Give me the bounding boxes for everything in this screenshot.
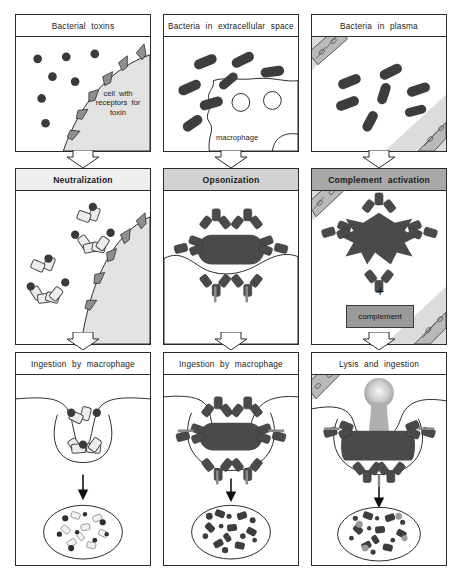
ingested-antibody-complex — [67, 406, 102, 453]
vessel-wall-bottom-right — [385, 94, 446, 151]
connector-arrow-3b — [311, 332, 447, 350]
antibody-toxin-complex-lower — [27, 254, 70, 303]
panel-body-bacteria-extracellular: macrophage — [164, 37, 298, 151]
column-opsonization: Bacteria in extracellular space — [163, 0, 301, 574]
digestion-arrow — [79, 474, 87, 498]
neutralized-toxin-art — [16, 191, 150, 344]
bound-toxins — [27, 254, 70, 290]
label-macrophage: macrophage — [216, 133, 276, 142]
lysing-bacterium — [341, 431, 415, 461]
panel-neutralization: Neutralization — [15, 168, 151, 345]
vessel-wall-top-left — [312, 37, 347, 71]
vessel-wall-top-left — [312, 191, 344, 221]
panel-title-bacterial-toxins: Bacterial toxins — [16, 15, 150, 37]
plus-operator: + — [312, 283, 446, 299]
immunology-figure: Bacterial toxins — [0, 0, 460, 574]
vessel-wall-top-left — [312, 375, 342, 401]
panel-title-complement-activation: Complement activation — [312, 169, 446, 191]
panel-title-opsonization: Opsonization — [164, 169, 298, 191]
panel-body-lysis-ingestion — [312, 375, 446, 565]
connector-arrow-3a — [311, 150, 447, 168]
panel-body-neutralization — [16, 191, 150, 344]
panel-title-ingestion-1: Ingestion by macrophage — [16, 353, 150, 375]
connector-arrow-1a — [15, 150, 151, 168]
panel-title-bacteria-plasma: Bacteria in plasma — [312, 15, 446, 37]
opsonized-bacterium-art — [164, 191, 298, 344]
panel-body-bacteria-plasma — [312, 37, 446, 151]
bacterium-with-antibodies — [342, 213, 417, 265]
panel-title-neutralization: Neutralization — [16, 169, 150, 191]
complement-label-box: complement — [346, 305, 414, 328]
panel-body-ingestion-2 — [164, 375, 298, 565]
panel-body-complement-activation: + complement — [312, 191, 446, 344]
panel-body-ingestion-1 — [16, 375, 150, 565]
panel-ingestion-neutralization: Ingestion by macrophage — [15, 352, 151, 566]
lysosome — [192, 505, 271, 559]
connector-arrow-2b — [163, 332, 299, 350]
panel-title-lysis-ingestion: Lysis and ingestion — [312, 353, 446, 375]
panel-bacterial-toxins: Bacterial toxins — [15, 14, 151, 152]
phagocytosis-art-2 — [164, 375, 298, 565]
blood-vessel-art — [312, 37, 446, 151]
connector-arrow-1b — [15, 332, 151, 350]
vacuole — [264, 92, 282, 110]
panel-title-bacteria-extracellular: Bacteria in extracellular space — [164, 15, 298, 37]
bound-toxins — [71, 203, 115, 239]
digestion-arrow — [227, 478, 235, 500]
connector-arrow-2a — [163, 150, 299, 168]
panel-title-ingestion-2: Ingestion by macrophage — [164, 353, 298, 375]
panel-lysis-and-ingestion: Lysis and ingestion — [311, 352, 447, 566]
lysed-contents-bleb — [364, 378, 394, 433]
bacterium — [199, 423, 262, 451]
antibody-toxin-complex-upper — [71, 203, 115, 254]
lysosome — [338, 507, 421, 561]
lysis-art — [312, 375, 446, 565]
panel-body-bacterial-toxins: cell with receptors for toxin — [16, 37, 150, 151]
bacterium — [198, 235, 265, 265]
digestion-arrow — [375, 486, 383, 506]
column-neutralization: Bacterial toxins — [15, 0, 153, 574]
macrophage-surface — [164, 254, 298, 344]
panel-complement-activation: Complement activation — [311, 168, 447, 345]
panel-body-opsonization — [164, 191, 298, 344]
label-cell-with-receptors: cell with receptors for toxin — [92, 89, 144, 117]
panel-bacteria-plasma: Bacteria in plasma — [311, 14, 447, 152]
vacuole — [232, 94, 250, 112]
phagocytosis-art-1 — [16, 375, 150, 565]
panel-opsonization: Opsonization — [163, 168, 299, 345]
panel-ingestion-opsonization: Ingestion by macrophage — [163, 352, 299, 566]
panel-bacteria-extracellular: Bacteria in extracellular space — [163, 14, 299, 152]
column-complement-activation: Bacteria in plasma — [311, 0, 449, 574]
